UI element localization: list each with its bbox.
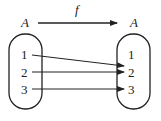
function-label: f	[75, 2, 81, 17]
codomain-element-2: 2	[128, 65, 135, 80]
mapping-arrow-1-to-2	[32, 55, 124, 66]
function-diagram: A A f 1 2 3 1 2 3	[0, 0, 161, 121]
codomain-element-3: 3	[128, 82, 135, 97]
domain-label: A	[20, 15, 29, 30]
domain-element-2: 2	[21, 65, 28, 80]
domain-element-3: 3	[21, 82, 28, 97]
codomain-label: A	[129, 15, 138, 30]
domain-element-1: 1	[21, 47, 28, 62]
codomain-element-1: 1	[128, 47, 135, 62]
